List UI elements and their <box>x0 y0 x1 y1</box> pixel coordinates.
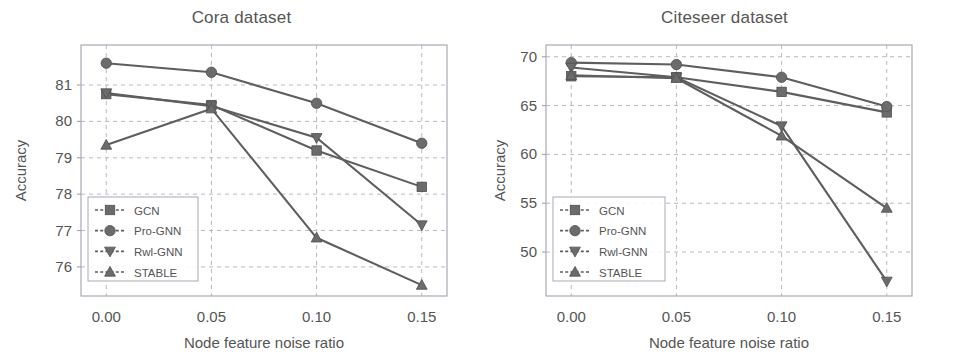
legend-label-stable: STABLE <box>599 267 643 279</box>
figure-root: Cora dataset 7677787980810.000.050.100.1… <box>0 0 967 359</box>
legend-marker-gcn <box>105 205 114 214</box>
y-tick-label: 70 <box>520 48 537 65</box>
y-axis-label: Accuracy <box>12 139 29 201</box>
data-point-rwl-gnn <box>881 277 892 287</box>
legend-marker-pro-gnn <box>570 225 580 235</box>
data-point-gcn <box>777 87 786 96</box>
y-tick-label: 50 <box>520 243 537 260</box>
legend-label-gcn: GCN <box>134 205 160 217</box>
legend-label-rwl-gnn: Rwl-GNN <box>599 246 648 258</box>
plot-area-cora: 7677787980810.000.050.100.15Node feature… <box>0 0 483 359</box>
legend-label-pro-gnn: Pro-GNN <box>599 225 646 237</box>
y-tick-label: 78 <box>55 185 72 202</box>
legend-label-stable: STABLE <box>134 267 178 279</box>
plot-area-citeseer: 50556065700.000.050.100.15Node feature n… <box>483 0 967 359</box>
data-point-gcn <box>417 182 426 191</box>
x-axis-label: Node feature noise ratio <box>649 334 809 351</box>
x-axis-label: Node feature noise ratio <box>184 334 344 351</box>
data-point-pro-gnn <box>776 72 786 82</box>
y-tick-label: 55 <box>520 194 537 211</box>
x-tick-label: 0.00 <box>557 308 586 325</box>
y-tick-label: 80 <box>55 112 72 129</box>
data-point-pro-gnn <box>882 101 892 111</box>
legend-label-gcn: GCN <box>599 205 625 217</box>
x-tick-label: 0.10 <box>767 308 796 325</box>
x-tick-label: 0.10 <box>302 308 331 325</box>
legend-label-rwl-gnn: Rwl-GNN <box>134 246 183 258</box>
x-tick-label: 0.15 <box>407 308 436 325</box>
data-point-pro-gnn <box>311 98 321 108</box>
data-point-pro-gnn <box>206 67 216 77</box>
legend-marker-gcn <box>570 205 579 214</box>
series-line-stable <box>571 75 887 208</box>
y-tick-label: 76 <box>55 258 72 275</box>
data-point-pro-gnn <box>101 58 111 68</box>
y-tick-label: 60 <box>520 145 537 162</box>
data-point-rwl-gnn <box>416 221 427 231</box>
x-tick-label: 0.05 <box>662 308 691 325</box>
data-point-pro-gnn <box>417 138 427 148</box>
data-point-pro-gnn <box>671 59 681 69</box>
legend-label-pro-gnn: Pro-GNN <box>134 225 181 237</box>
y-tick-label: 79 <box>55 149 72 166</box>
series-line-pro-gnn <box>106 63 422 143</box>
y-axis-label: Accuracy <box>491 139 508 201</box>
data-point-stable <box>881 203 892 213</box>
y-tick-label: 65 <box>520 97 537 114</box>
chart-panel-citeseer: Citeseer dataset 50556065700.000.050.100… <box>483 0 966 359</box>
legend-marker-pro-gnn <box>105 225 115 235</box>
chart-panel-cora: Cora dataset 7677787980810.000.050.100.1… <box>0 0 483 359</box>
x-tick-label: 0.00 <box>92 308 121 325</box>
y-tick-label: 81 <box>55 76 72 93</box>
y-tick-label: 77 <box>55 222 72 239</box>
data-point-gcn <box>312 146 321 155</box>
x-tick-label: 0.15 <box>872 308 901 325</box>
x-tick-label: 0.05 <box>197 308 226 325</box>
